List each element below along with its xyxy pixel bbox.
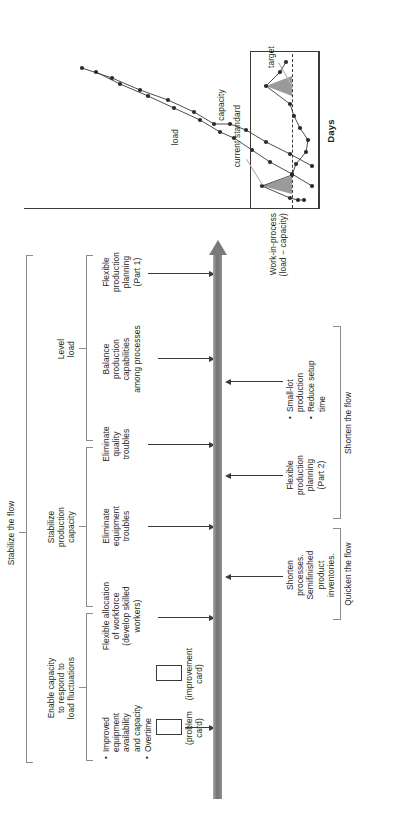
label-level-load: Level load (56, 299, 76, 399)
label-shorten-the-flow: Shorten the flow (343, 373, 353, 473)
bracket-enable-capacity-tick-center (79, 687, 86, 688)
bracket-stabilize-production-capacity-tick-center (79, 526, 86, 527)
arrow-line-flexible-production-planning-part-2 (231, 475, 283, 476)
arrow-line-small-lot-production (231, 381, 283, 382)
item-improved-equipment: Improved equipment availability and capa… (101, 675, 154, 759)
label-improvement-card: (improvement card) (184, 641, 204, 707)
wip-shaded-peak-left (262, 176, 292, 194)
arrow-head-flexible-production-planning-part-2 (225, 473, 231, 479)
label-quicken-the-flow: Quicken the flow (343, 524, 353, 624)
bracket-enable-capacity (86, 613, 87, 761)
annotation-load: load (170, 117, 180, 157)
improvement-card-rect (156, 665, 182, 681)
problem-card-rect (156, 719, 182, 735)
annotation-target: target (266, 37, 276, 77)
label-enable-capacity: Enable capacity to respond to load fluct… (46, 638, 77, 738)
arrow-head-shorten-processes (225, 574, 231, 580)
arrow-line-eliminate-quality-troubles (148, 444, 211, 445)
chart-panel: load capacity current standard (20, 13, 360, 209)
bracket-enable-capacity-tick-left (86, 760, 93, 761)
item-flexible-production-planning-part-2: Flexible production planning (Part 2) (285, 433, 326, 517)
annotation-current-standard: current standard (232, 89, 242, 183)
item-flexible-production-planning-part-1: Flexible production planning (Part 1) (101, 229, 142, 315)
item-balance-production-capabilities: Balance production capabilities among pr… (101, 307, 142, 411)
bullet-improved-equipment: Improved equipment availability and capa… (101, 675, 142, 759)
bracket-stabilize-production-capacity-tick-left (86, 606, 93, 607)
item-shorten-processes: Shorten processes. Semifinished product … (285, 531, 336, 619)
bracket-enable-capacity-tick-right (86, 613, 93, 614)
arrow-line-improved-equipment (185, 727, 211, 728)
bracket-quicken-the-flow-tick-right (333, 528, 341, 529)
bullet-reduce-setup-time: Reduce setup time (306, 329, 326, 419)
chart-xlabel: Days (326, 91, 336, 171)
figure-canvas: Stabilize the flow Enable capacity to re… (0, 0, 398, 823)
bracket-level-load-tick-center (79, 348, 86, 349)
item-small-lot-production: Small-lot production Reduce setup time (285, 329, 328, 419)
item-eliminate-quality-troubles: Eliminate quality troubles (101, 399, 132, 489)
bracket-stabilize-the-flow-tick-center (19, 532, 26, 533)
bullet-small-lot-production: Small-lot production (285, 329, 305, 419)
item-eliminate-equipment-troubles: Eliminate equipment troubles (101, 481, 132, 571)
annotation-capacity: capacity (216, 79, 226, 131)
bracket-level-load (86, 255, 87, 441)
main-flow-arrow-shaft (213, 253, 222, 799)
bracket-quicken-the-flow (340, 528, 341, 620)
arrow-line-flexible-production-planning-part-1 (148, 273, 211, 274)
arrow-line-balance-production-capabilities (158, 358, 211, 359)
bracket-shorten-the-flow-tick-left (333, 518, 341, 519)
figure-rotation-host: Stabilize the flow Enable capacity to re… (0, 0, 398, 823)
main-flow-arrow-head (209, 240, 227, 255)
bracket-stabilize-the-flow-tick-right (26, 255, 33, 256)
label-stabilize-production-capacity: Stabilize production capacity (46, 477, 77, 577)
bracket-level-load-tick-right (86, 255, 93, 256)
arrow-line-flexible-allocation (158, 617, 211, 618)
bracket-stabilize-the-flow (26, 255, 27, 763)
label-stabilize-the-flow: Stabilize the flow (6, 483, 16, 583)
bracket-shorten-the-flow-tick-right (333, 326, 341, 327)
bracket-stabilize-production-capacity-tick-right (86, 447, 93, 448)
bracket-level-load-tick-left (86, 440, 93, 441)
bracket-stabilize-production-capacity (86, 447, 87, 607)
item-flexible-allocation: Flexible allocation of workforce (develo… (101, 561, 142, 671)
bracket-shorten-the-flow (340, 326, 341, 519)
arrow-line-eliminate-equipment-troubles (148, 526, 211, 527)
wip-axis-label: Work-in-process (load − capacity) (268, 213, 288, 313)
bullet-overtime: Overtime (143, 675, 153, 759)
bracket-stabilize-the-flow-tick-left (26, 762, 33, 763)
arrow-line-shorten-processes (231, 576, 283, 577)
arrow-head-small-lot-production (225, 379, 231, 385)
bracket-quicken-the-flow-tick-left (333, 619, 341, 620)
